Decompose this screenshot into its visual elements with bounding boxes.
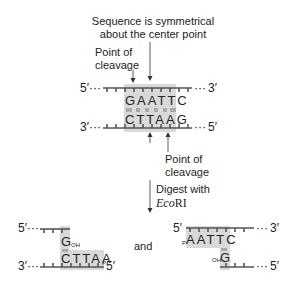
top-strand-left-dots: ··· (89, 81, 101, 95)
right-frag-g: G (220, 250, 232, 265)
cleavage-bottom-label-line2: cleavage (165, 166, 209, 178)
enzyme-name: EcoRI (155, 196, 187, 210)
center-arrow-up (148, 132, 153, 143)
right-frag-aattc: AATTC (186, 232, 238, 247)
symmetry-label-line2: about the center point (100, 28, 206, 40)
right-fragment: 5′ ··· 3′ P AATTC OH G ··· 5′ (173, 221, 280, 273)
left-frag-top-dots: ··· (27, 221, 39, 235)
left-frag-bottom-5prime: 5′ (106, 259, 116, 273)
bottom-strand-5prime: 5′ (208, 120, 218, 134)
cleavage-top-label-line1: Point of (95, 46, 133, 58)
right-frag-top-5prime: 5′ (173, 221, 183, 235)
ecori-digest-diagram: Sequence is symmetrical about the center… (0, 0, 294, 287)
left-fragment: 5′ ··· G OH CTTAA P 3′ ··· 5′ (18, 221, 116, 273)
left-frag-bottom-dots: ··· (27, 259, 39, 273)
top-strand-3prime: 3′ (208, 81, 218, 95)
right-frag-bottom-dots: ··· (256, 259, 268, 273)
right-frag-top-3prime: 3′ (270, 221, 280, 235)
digest-arrow (148, 180, 153, 213)
digest-label: Digest with (156, 183, 210, 195)
top-sequence: GAATTC (125, 93, 189, 108)
bottom-strand-left-dots: ··· (89, 120, 101, 134)
left-frag-oh: OH (71, 242, 80, 248)
right-frag-bottom-5prime: 5′ (270, 259, 280, 273)
top-strand-right-dots: ··· (194, 81, 206, 95)
cleavage-bottom-arrow (166, 132, 171, 152)
cleavage-top-arrow (131, 70, 136, 83)
right-frag-top-dots: ··· (256, 221, 268, 235)
bottom-strand-right-dots: ··· (194, 120, 206, 134)
symmetry-label-line1: Sequence is symmetrical (92, 15, 214, 27)
symmetry-arrow (148, 42, 153, 81)
cleavage-top-label-line2: cleavage (95, 59, 139, 71)
and-label: and (134, 240, 152, 252)
cleavage-bottom-label-line1: Point of (165, 153, 203, 165)
